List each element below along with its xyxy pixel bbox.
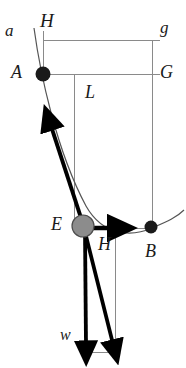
- label-L: L: [85, 83, 95, 101]
- pendulum-arc-curve: [34, 28, 184, 233]
- label-G: G: [160, 63, 173, 81]
- node-A: [36, 67, 51, 82]
- label-A: A: [11, 63, 22, 81]
- label-H-bottom: H: [98, 235, 111, 253]
- label-g: g: [160, 19, 169, 36]
- pendulum-force-diagram: a H g A G L E H B w: [0, 0, 186, 368]
- weight-vector-w-arrow: [85, 232, 86, 345]
- ball-E: [72, 215, 94, 237]
- label-H-top: H: [40, 11, 54, 30]
- label-B: B: [145, 242, 156, 260]
- label-w: w: [60, 327, 71, 343]
- tension-vector-arrow: [51, 126, 83, 224]
- label-E: E: [51, 215, 62, 233]
- diagram-canvas: [0, 0, 186, 368]
- node-B: [145, 221, 158, 234]
- label-a: a: [5, 22, 14, 39]
